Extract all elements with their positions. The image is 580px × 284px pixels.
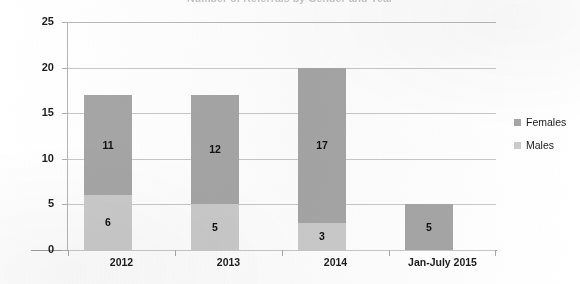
bar-segment-males[interactable]: 5: [191, 204, 239, 250]
stacked-bar-chart: 0510152025 6115123175 201220132014Jan-Ju…: [0, 0, 580, 284]
bar-group[interactable]: 512: [191, 22, 239, 250]
y-tick-label-0: 0: [0, 243, 54, 255]
legend-label: Males: [526, 139, 554, 151]
y-tick-label-5: 5: [0, 197, 54, 209]
bar-value-label: 3: [319, 231, 325, 242]
plot-area: 6115123175: [68, 22, 496, 250]
bar-group[interactable]: 611: [84, 22, 132, 250]
bar-value-label: 5: [212, 222, 218, 233]
bar-group[interactable]: 317: [298, 22, 346, 250]
legend-item[interactable]: Females: [514, 116, 566, 128]
y-tick-label-15: 15: [0, 106, 54, 118]
x-tick-label: 2013: [175, 256, 282, 268]
legend-swatch-icon: [514, 119, 521, 126]
x-tick-label: Jan-July 2015: [389, 256, 496, 268]
bar-segment-females[interactable]: 5: [405, 204, 453, 250]
bar-segment-males[interactable]: 3: [298, 223, 346, 250]
bar-value-label: 17: [316, 140, 328, 151]
bar-value-label: 5: [426, 222, 432, 233]
bar-value-label: 6: [105, 217, 111, 228]
bar-value-label: 11: [102, 140, 113, 151]
bar-segment-females[interactable]: 12: [191, 95, 239, 204]
x-tick-label: 2012: [68, 256, 175, 268]
legend-swatch-icon: [514, 142, 521, 149]
chart-legend: FemalesMales: [514, 116, 566, 162]
y-tick-label-10: 10: [0, 152, 54, 164]
bar-segment-females[interactable]: 11: [84, 95, 132, 195]
y-tick-label-20: 20: [0, 61, 54, 73]
bar-group[interactable]: 5: [405, 22, 453, 250]
x-tick-label: 2014: [282, 256, 389, 268]
bar-value-label: 12: [209, 144, 221, 155]
bar-segment-females[interactable]: 17: [298, 68, 346, 223]
legend-item[interactable]: Males: [514, 139, 566, 151]
y-tick-label-25: 25: [0, 15, 54, 27]
bar-segment-males[interactable]: 6: [84, 195, 132, 250]
legend-label: Females: [526, 116, 566, 128]
